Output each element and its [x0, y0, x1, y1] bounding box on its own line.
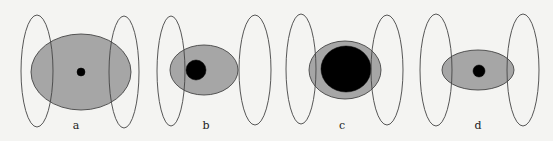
panel-label: a	[73, 119, 80, 132]
panel-label: c	[339, 119, 345, 132]
right-ring-ellipse	[239, 15, 271, 125]
ellipse-diagram: abcd	[0, 0, 553, 141]
panel-d: d	[420, 14, 539, 132]
panel-label: d	[474, 119, 481, 132]
panel-b: b	[157, 15, 271, 132]
black-core	[321, 46, 371, 92]
panel-label: b	[202, 119, 209, 132]
black-core	[473, 65, 485, 77]
black-core	[186, 60, 206, 80]
black-core	[77, 68, 85, 76]
panel-c: c	[286, 14, 403, 132]
diagram-canvas: abcd	[0, 0, 553, 141]
panel-a: a	[21, 15, 139, 132]
